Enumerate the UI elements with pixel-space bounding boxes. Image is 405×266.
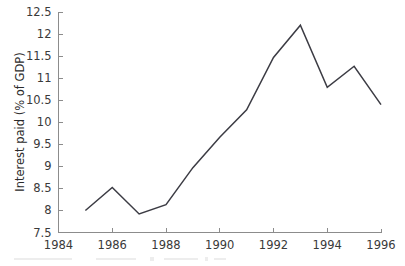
y-tick-label: 10 (37, 115, 52, 129)
y-tick-label: 12 (37, 27, 52, 41)
y-tick-label: 8.5 (33, 181, 51, 195)
y-tick-label: 12.5 (26, 5, 52, 19)
y-axis-title: Interest paid (% of GDP) (13, 52, 27, 191)
x-tick-label: 1996 (366, 238, 395, 252)
x-tick-label: 1988 (151, 238, 180, 252)
y-tick-label: 11 (37, 71, 52, 85)
chart-background (0, 0, 405, 266)
x-tick-label: 1986 (98, 238, 127, 252)
y-tick-label: 11.5 (26, 49, 52, 63)
x-tick-label: 1990 (205, 238, 234, 252)
chart-figure: Interest paid (% of GDP) 7.588.599.51010… (0, 0, 405, 266)
x-tick-label: 1994 (313, 238, 342, 252)
line-chart: Interest paid (% of GDP) 7.588.599.51010… (0, 0, 405, 266)
y-tick-label: 9.5 (33, 137, 51, 151)
y-tick-label: 8 (44, 203, 51, 217)
y-tick-label: 10.5 (26, 93, 52, 107)
y-tick-label: 9 (44, 159, 51, 173)
x-tick-label: 1984 (44, 238, 73, 252)
x-tick-label: 1992 (259, 238, 288, 252)
